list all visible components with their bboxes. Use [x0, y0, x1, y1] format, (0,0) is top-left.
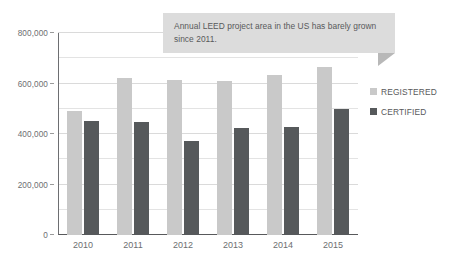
callout-tail-icon — [378, 53, 395, 66]
legend-item-registered[interactable]: REGISTERED — [370, 86, 455, 97]
y-tick-label: 200,000 — [18, 180, 48, 189]
bar-registered-2010[interactable] — [67, 111, 83, 235]
legend-label: CERTIFIED — [381, 107, 426, 117]
x-tick-label-2013: 2013 — [223, 240, 243, 250]
bar-certified-2014[interactable] — [284, 127, 300, 235]
bar-certified-2011[interactable] — [134, 122, 150, 235]
bar-group — [317, 33, 350, 235]
legend-swatch-icon — [370, 88, 377, 95]
y-axis: 0200,000400,000600,000800,000 — [0, 33, 54, 235]
y-tick-mark — [50, 184, 54, 185]
bar-certified-2013[interactable] — [234, 128, 250, 235]
bar-group — [67, 33, 100, 235]
y-tick-label: 600,000 — [18, 79, 48, 88]
x-tick-label-2010: 2010 — [73, 240, 93, 250]
legend-item-certified[interactable]: CERTIFIED — [370, 106, 455, 117]
bars-layer — [58, 33, 358, 235]
bar-registered-2014[interactable] — [267, 75, 283, 235]
bar-registered-2011[interactable] — [117, 78, 133, 235]
y-tick-mark — [50, 133, 54, 134]
plot-area — [58, 33, 358, 235]
x-tick-label-2015: 2015 — [323, 240, 343, 250]
bar-certified-2010[interactable] — [84, 121, 100, 235]
annotation-text: Annual LEED project area in the US has b… — [163, 13, 395, 53]
bar-certified-2012[interactable] — [184, 141, 200, 235]
x-tick-label-2011: 2011 — [123, 240, 142, 250]
bar-group — [117, 33, 150, 235]
bar-group — [267, 33, 300, 235]
x-axis: 201020112012201320142015 — [58, 238, 358, 260]
y-tick-label: 800,000 — [18, 29, 48, 38]
bar-group — [217, 33, 250, 235]
y-tick-label: 0 — [43, 231, 48, 240]
bar-group — [167, 33, 200, 235]
bar-registered-2012[interactable] — [167, 80, 183, 235]
bar-chart: 0200,000400,000600,000800,000 2010201120… — [0, 0, 457, 265]
x-tick-label-2012: 2012 — [173, 240, 193, 250]
x-tick-label-2014: 2014 — [273, 240, 293, 250]
y-tick-mark — [50, 32, 54, 33]
y-tick-mark — [50, 234, 54, 235]
bar-registered-2015[interactable] — [317, 67, 333, 235]
bar-registered-2013[interactable] — [217, 81, 233, 235]
legend-swatch-icon — [370, 108, 377, 115]
annotation-callout: Annual LEED project area in the US has b… — [163, 13, 395, 53]
y-tick-mark — [50, 83, 54, 84]
chart-legend: REGISTEREDCERTIFIED — [370, 86, 455, 126]
legend-label: REGISTERED — [381, 87, 437, 97]
y-tick-label: 400,000 — [18, 130, 48, 139]
bar-certified-2015[interactable] — [334, 109, 350, 235]
